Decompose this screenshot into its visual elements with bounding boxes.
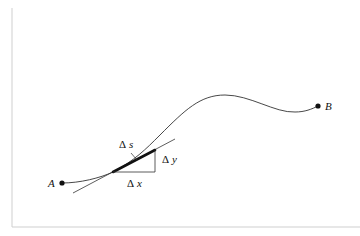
point-b-label: B — [325, 100, 332, 112]
delta-y-label: Δy — [162, 153, 177, 165]
point-b-dot — [315, 103, 320, 108]
arc-length-diagram: A B Δs Δy Δx — [0, 0, 360, 236]
delta-s-segment — [113, 150, 155, 172]
curve — [62, 95, 318, 183]
delta-s-label: Δs — [119, 138, 133, 150]
delta-x-label: Δx — [127, 177, 142, 189]
point-a-label: A — [47, 177, 55, 189]
point-a-dot — [59, 180, 64, 185]
